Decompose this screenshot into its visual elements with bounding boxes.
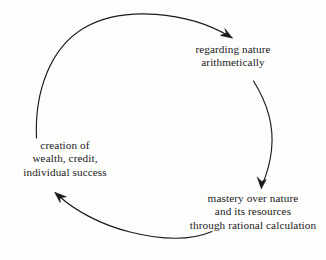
- node-line: mastery over nature: [190, 192, 316, 205]
- arrowhead-top: [220, 29, 232, 39]
- node-label-mastery-over-nature: mastery over nature and its resources th…: [190, 192, 316, 232]
- arc-right-to-mastery: [254, 81, 273, 184]
- node-line: and its resources: [190, 205, 316, 218]
- node-label-regarding-nature-arithmetically: regarding nature arithmetically: [195, 43, 270, 70]
- arc-top-to-arithmetic: [36, 14, 229, 138]
- node-line: individual success: [23, 166, 107, 179]
- node-label-creation-of-wealth: creation of wealth, credit, individual s…: [23, 139, 107, 179]
- node-line: through rational calculation: [190, 219, 316, 232]
- node-line: arithmetically: [195, 56, 270, 69]
- cycle-diagram: regarding nature arithmetically mastery …: [0, 0, 326, 260]
- node-line: wealth, credit,: [23, 152, 107, 165]
- node-line: regarding nature: [195, 43, 270, 56]
- node-line: creation of: [23, 139, 107, 152]
